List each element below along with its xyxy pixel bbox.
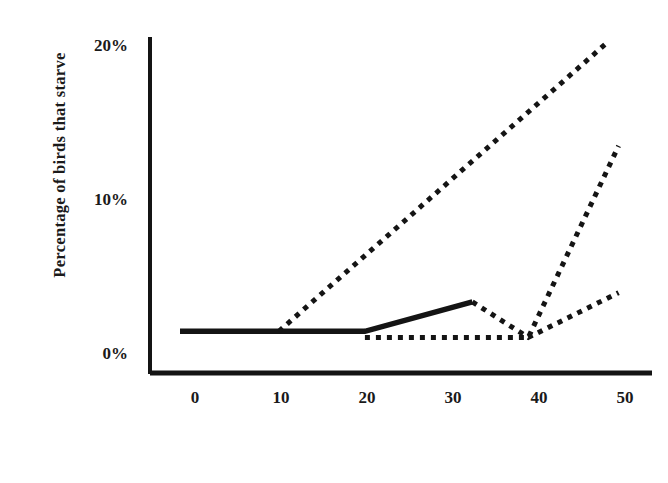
series-line-dotted-steep-early xyxy=(279,44,606,331)
series-line-dotted-shallow xyxy=(472,293,618,338)
series-line-dotted-steep-late xyxy=(365,146,619,338)
data-series-layer xyxy=(180,44,619,338)
chart-figure: Percentage of birds that starve 20% 10% … xyxy=(0,0,668,483)
series-line-baseline-solid xyxy=(180,302,472,331)
plot-area xyxy=(0,0,668,483)
